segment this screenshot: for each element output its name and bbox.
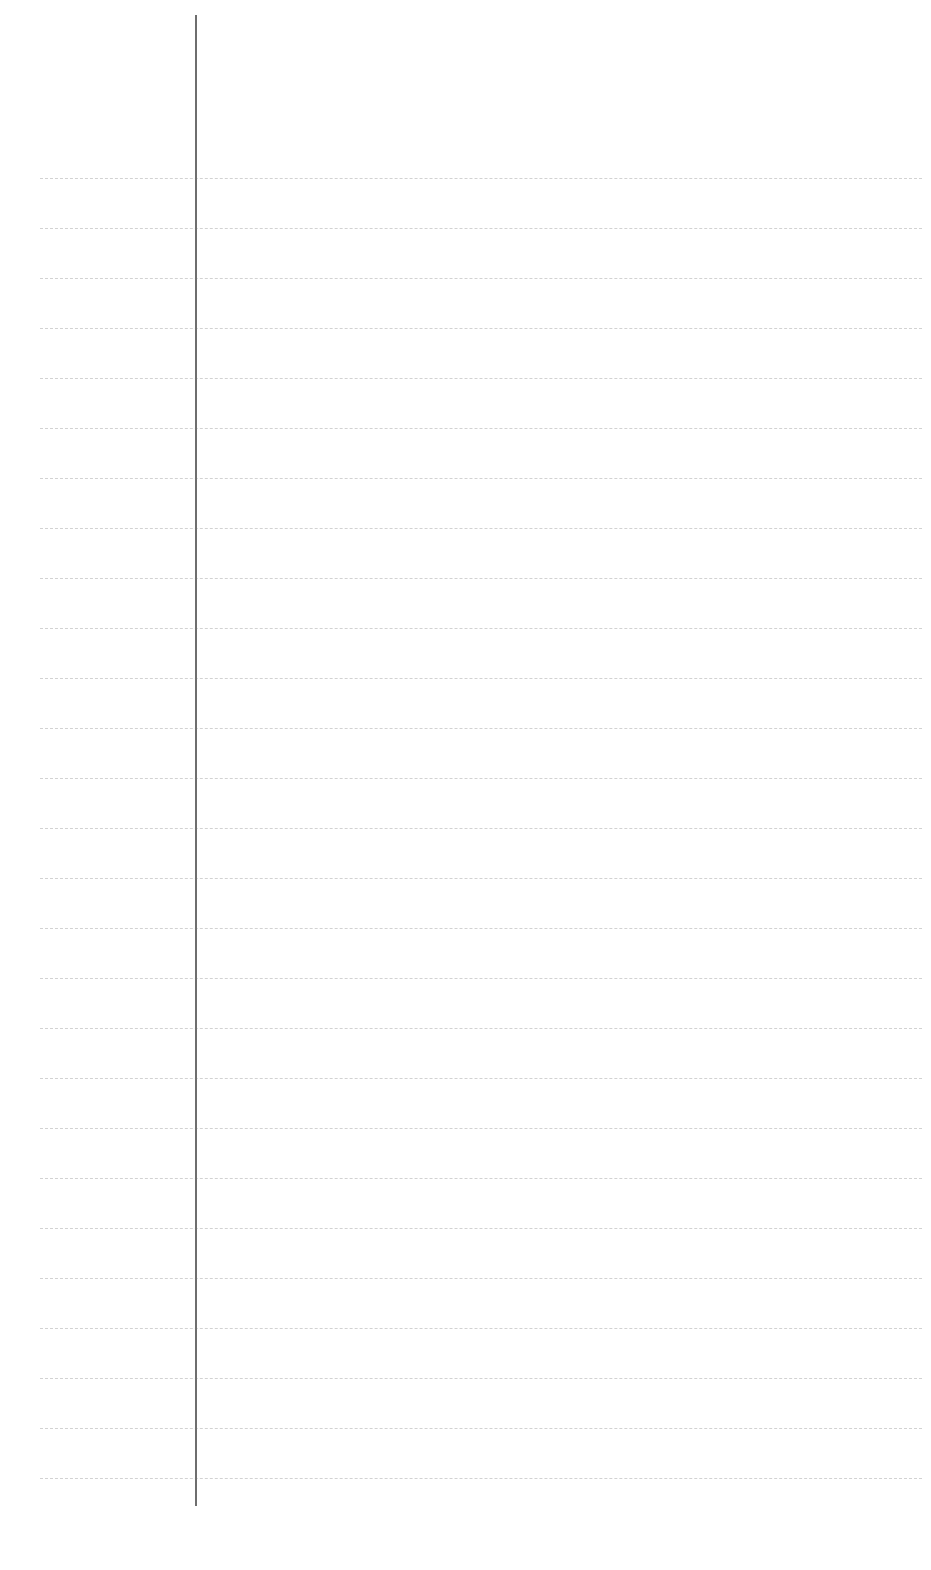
ruled-line [40,1278,922,1279]
ruled-line [40,1128,922,1129]
ruled-line [40,628,922,629]
ruled-line [40,278,922,279]
ruled-line [40,378,922,379]
ruled-line [40,678,922,679]
ruled-line [40,1378,922,1379]
ruled-line [40,1478,922,1479]
ruled-line [40,178,922,179]
ruled-line [40,1028,922,1029]
ruled-line [40,928,922,929]
margin-line [195,15,197,1506]
ruled-line [40,828,922,829]
ruled-line [40,1328,922,1329]
ruled-line [40,1428,922,1429]
ruled-line [40,428,922,429]
ruled-line [40,878,922,879]
ruled-line [40,478,922,479]
ruled-line [40,228,922,229]
ruled-notebook-page [0,0,931,1570]
ruled-line [40,978,922,979]
ruled-line [40,1228,922,1229]
ruled-line [40,728,922,729]
ruled-line [40,528,922,529]
ruled-line [40,778,922,779]
ruled-line [40,1078,922,1079]
ruled-line [40,328,922,329]
ruled-line [40,578,922,579]
ruled-line [40,1178,922,1179]
